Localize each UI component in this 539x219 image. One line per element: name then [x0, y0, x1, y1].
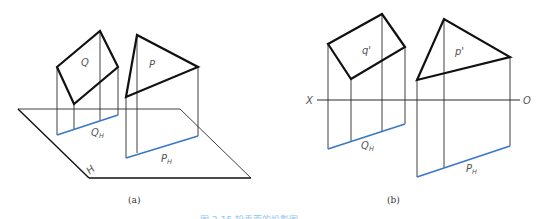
label-qh-b: QH	[361, 140, 374, 153]
label-p-prime: p'	[454, 46, 464, 57]
p-projectors-b	[417, 19, 510, 177]
label-q-prime: q'	[362, 45, 371, 56]
trace-qh	[57, 115, 118, 135]
axis-label-o: O	[523, 95, 531, 106]
figure-a: Q P QH PH H (a)	[18, 31, 251, 205]
label-ph-b: PH	[466, 163, 477, 176]
trace-ph-b	[417, 146, 510, 177]
figure-b: X O q' p' QH PH (b)	[305, 14, 531, 205]
projection-diagram: Q P QH PH H (a) X O q' p' QH	[0, 0, 539, 219]
figure-a-label: (a)	[128, 195, 140, 205]
label-p: P	[149, 59, 156, 70]
figure-b-label: (b)	[387, 195, 400, 205]
label-ph: PH	[161, 153, 172, 166]
figure-caption: 图 3-15 铅垂面的投影图	[200, 214, 298, 219]
q-projectors-b	[328, 14, 405, 149]
axis-label-x: X	[305, 95, 314, 106]
label-qh: QH	[91, 127, 104, 140]
h-plane	[18, 109, 251, 178]
label-q: Q	[81, 57, 89, 68]
